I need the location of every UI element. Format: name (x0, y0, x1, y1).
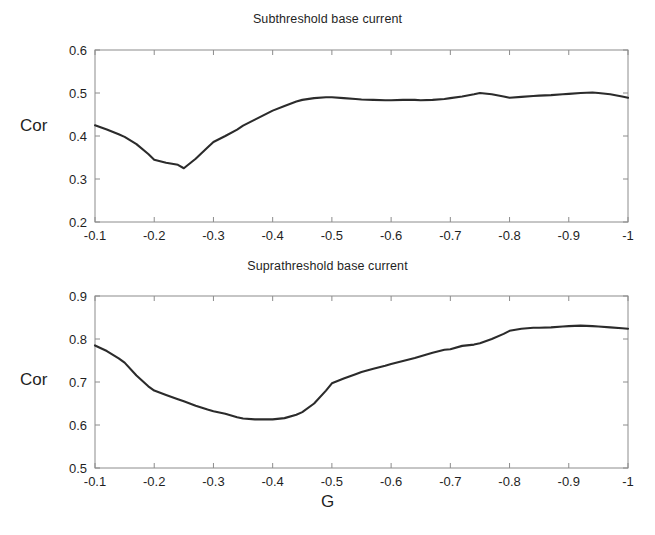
x-tick-label: -1 (622, 228, 634, 243)
y-tick-label: 0.2 (69, 215, 87, 230)
y-tick-label: 0.7 (69, 375, 87, 390)
x-tick-label: -0.6 (380, 474, 402, 489)
x-tick-label: -0.3 (202, 474, 224, 489)
plot-area-subthreshold: -0.1-0.2-0.3-0.4-0.5-0.6-0.7-0.8-0.9-10.… (0, 0, 655, 255)
x-tick-label: -1 (622, 474, 634, 489)
x-tick-label: -0.7 (439, 228, 461, 243)
figure-canvas: Subthreshold base current Cor -0.1-0.2-0… (0, 0, 655, 535)
y-tick-label: 0.6 (69, 418, 87, 433)
y-tick-label: 0.8 (69, 332, 87, 347)
y-tick-label: 0.6 (69, 43, 87, 58)
axes-box (95, 50, 628, 222)
x-tick-label: -0.2 (143, 474, 165, 489)
x-tick-label: -0.9 (558, 474, 580, 489)
x-tick-label: -0.1 (84, 474, 106, 489)
x-tick-label: -0.3 (202, 228, 224, 243)
chart-panel-suprathreshold: Suprathreshold base current Cor G -0.1-0… (0, 255, 655, 535)
y-tick-label: 0.4 (69, 129, 87, 144)
data-series-line (95, 326, 628, 420)
data-series-line (95, 93, 628, 169)
x-tick-label: -0.4 (261, 474, 283, 489)
chart-panel-subthreshold: Subthreshold base current Cor -0.1-0.2-0… (0, 0, 655, 255)
x-tick-label: -0.2 (143, 228, 165, 243)
x-tick-label: -0.8 (498, 474, 520, 489)
x-tick-label: -0.6 (380, 228, 402, 243)
x-tick-label: -0.5 (321, 474, 343, 489)
y-tick-label: 0.5 (69, 86, 87, 101)
y-tick-label: 0.9 (69, 289, 87, 304)
plot-area-suprathreshold: -0.1-0.2-0.3-0.4-0.5-0.6-0.7-0.8-0.9-10.… (0, 255, 655, 535)
x-tick-label: -0.5 (321, 228, 343, 243)
x-tick-label: -0.9 (558, 228, 580, 243)
x-tick-label: -0.1 (84, 228, 106, 243)
y-tick-label: 0.5 (69, 461, 87, 476)
axes-box (95, 296, 628, 468)
x-tick-label: -0.4 (261, 228, 283, 243)
x-tick-label: -0.8 (498, 228, 520, 243)
y-tick-label: 0.3 (69, 172, 87, 187)
x-tick-label: -0.7 (439, 474, 461, 489)
